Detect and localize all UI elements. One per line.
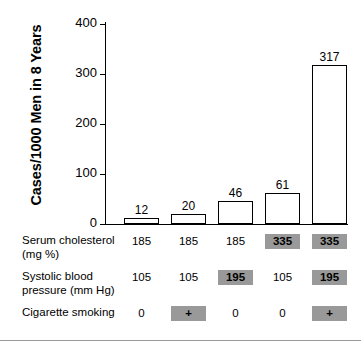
cell-sbp-4: 105 — [265, 270, 300, 285]
bar-3: 46 — [218, 201, 253, 224]
table-row-systolic-blood-pressure: Systolic blood pressure (mm Hg) 105 105 … — [0, 267, 361, 303]
y-tick-label-0: 0 — [90, 215, 97, 230]
y-axis-line — [105, 22, 106, 225]
bar-value-label-4: 61 — [276, 178, 289, 192]
cell-sbp-5: 195 — [312, 270, 347, 285]
bar-1: 12 — [124, 218, 159, 224]
bar-5: 317 — [312, 65, 347, 224]
bar-2: 20 — [171, 214, 206, 224]
y-tick-label-400: 400 — [75, 15, 97, 30]
row-label-line2: (mg %) — [22, 248, 132, 262]
cell-smoke-5: + — [312, 306, 347, 321]
bar-value-label-3: 46 — [229, 186, 242, 200]
cell-sbp-3: 195 — [218, 270, 253, 285]
y-tick-label-300: 300 — [75, 65, 97, 80]
y-axis-title: Cases/1000 Men in 8 Years — [28, 8, 44, 223]
bar-4: 61 — [265, 193, 300, 224]
row-label-line1: Cigarette smoking — [22, 306, 132, 320]
cell-chol-1: 185 — [124, 234, 159, 249]
cell-smoke-2: + — [171, 306, 206, 321]
bar-value-label-2: 20 — [182, 199, 195, 213]
cell-sbp-2: 105 — [171, 270, 206, 285]
cell-chol-5: 335 — [312, 234, 347, 249]
row-label-cigarette-smoking: Cigarette smoking — [22, 306, 132, 320]
cell-chol-4: 335 — [265, 234, 300, 249]
plot-area: 0 100 200 300 400 12 20 46 61 — [105, 22, 348, 225]
cell-chol-2: 185 — [171, 234, 206, 249]
row-label-systolic-blood-pressure: Systolic blood pressure (mm Hg) — [22, 270, 132, 297]
bottom-rule — [0, 340, 361, 341]
bar-value-label-5: 317 — [319, 50, 339, 64]
cell-smoke-4: 0 — [265, 306, 300, 321]
cell-smoke-3: 0 — [218, 306, 253, 321]
cell-smoke-1: 0 — [124, 306, 159, 321]
table-row-serum-cholesterol: Serum cholesterol (mg %) 185 185 185 335… — [0, 231, 361, 267]
row-label-line1: Systolic blood — [22, 270, 132, 284]
y-tick-label-200: 200 — [75, 115, 97, 130]
table-row-cigarette-smoking: Cigarette smoking 0 + 0 0 + — [0, 303, 361, 337]
row-label-line2: pressure (mm Hg) — [22, 284, 132, 298]
row-label-serum-cholesterol: Serum cholesterol (mg %) — [22, 234, 132, 261]
cell-chol-3: 185 — [218, 234, 253, 249]
bar-value-label-1: 12 — [135, 203, 148, 217]
x-axis-line — [105, 224, 348, 225]
row-label-line1: Serum cholesterol — [22, 234, 132, 248]
cell-sbp-1: 105 — [124, 270, 159, 285]
y-tick-label-100: 100 — [75, 165, 97, 180]
risk-factor-table: Serum cholesterol (mg %) 185 185 185 335… — [0, 231, 361, 337]
bar-chart-figure: Cases/1000 Men in 8 Years 0 100 200 300 … — [0, 0, 361, 349]
